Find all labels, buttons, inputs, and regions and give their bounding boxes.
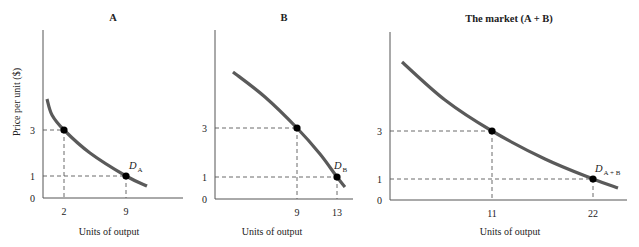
x-tick-label: 22 [588, 208, 598, 219]
x-tick-label: 9 [295, 207, 300, 218]
data-point [122, 172, 129, 179]
data-point [293, 124, 300, 131]
y-tick-label: 1 [30, 171, 35, 182]
demand-curve [233, 72, 345, 187]
y-tick-label: 1 [202, 172, 207, 183]
demand-aggregation-chart: Price per unit ($) A01329Units of output… [0, 0, 639, 247]
curve-label: DA [128, 160, 143, 174]
panel-b: B013913Units of outputDB [202, 12, 353, 237]
panel-title: B [280, 12, 287, 23]
panel-title: A [109, 12, 117, 23]
y-tick-label: 1 [377, 174, 382, 185]
panel-market: The market (A + B)0131122Units of output… [377, 13, 627, 237]
x-axis-label: Units of output [242, 226, 303, 237]
y-tick-label: 3 [377, 126, 382, 137]
data-point [589, 175, 596, 182]
curve-label: DA + B [594, 163, 621, 177]
x-tick-label: 2 [62, 206, 67, 217]
y-axis-label: Price per unit ($) [11, 68, 23, 136]
demand-curve [47, 99, 147, 186]
y-tick-label: 0 [30, 193, 35, 204]
y-tick-label: 3 [202, 123, 207, 134]
data-point [60, 126, 67, 133]
data-point [488, 127, 495, 134]
x-tick-label: 11 [487, 208, 497, 219]
x-tick-label: 13 [332, 207, 342, 218]
y-tick-label: 0 [377, 195, 382, 206]
data-point [333, 173, 340, 180]
y-tick-label: 0 [202, 194, 207, 205]
y-tick-label: 3 [30, 125, 35, 136]
demand-curve [402, 62, 618, 188]
x-axis-label: Units of output [79, 226, 140, 237]
x-axis-label: Units of output [480, 226, 541, 237]
panel-a: A01329Units of outputDA [30, 12, 183, 237]
x-tick-label: 9 [124, 206, 129, 217]
panel-title: The market (A + B) [465, 13, 553, 25]
